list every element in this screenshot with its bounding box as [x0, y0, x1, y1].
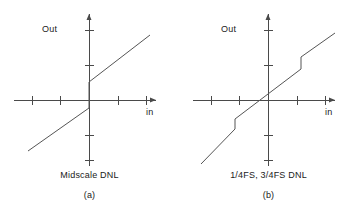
- panel-index-label: (b): [179, 190, 358, 200]
- y-axis-arrow-icon: [266, 14, 271, 20]
- dnl-transfer-curve-figure: Out in Midscale DNL (a) Out: [0, 0, 358, 214]
- panel-caption: Midscale DNL: [0, 170, 179, 180]
- x-axis-arrow-icon: [150, 98, 156, 103]
- plot-midscale-dnl: [0, 0, 179, 166]
- panel-caption: 1/4FS, 3/4FS DNL: [179, 170, 358, 180]
- y-axis-arrow-icon: [87, 14, 92, 20]
- x-axis-arrow-icon: [329, 98, 335, 103]
- x-axis-label: in: [325, 107, 332, 117]
- x-axis-label: in: [146, 107, 153, 117]
- panel-index-label: (a): [0, 190, 179, 200]
- panel-midscale-dnl: Out in Midscale DNL (a): [0, 0, 179, 214]
- y-axis-label: Out: [221, 24, 236, 34]
- y-axis-label: Out: [42, 24, 57, 34]
- plot-quarter-fs-dnl: [179, 0, 358, 166]
- panel-quarter-fs-dnl: Out in 1/4FS, 3/4FS DNL (b): [179, 0, 358, 214]
